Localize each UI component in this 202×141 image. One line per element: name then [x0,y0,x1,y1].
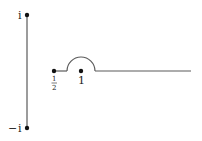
label-minus-sign: − [8,122,17,135]
contour-diagram: i − i 1 2 1 [0,0,202,141]
label-half-numerator: 1 [52,75,56,83]
point-half [52,69,56,73]
label-minus-i: i [18,122,22,135]
point-minus-i [25,126,29,130]
point-one [79,69,83,73]
point-i [25,13,29,17]
label-one: 1 [78,74,85,87]
label-half-denominator: 2 [52,84,56,92]
label-i: i [18,9,22,22]
